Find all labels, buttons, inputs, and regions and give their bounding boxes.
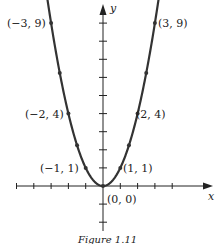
- point-label: (1, 1): [123, 162, 153, 175]
- data-point: [153, 21, 157, 25]
- point-label: (−3, 9): [7, 17, 46, 30]
- data-point: [58, 71, 62, 75]
- point-label: (0, 0): [107, 193, 137, 206]
- point-labels: (−3, 9)(3, 9)(−2, 4)(2, 4)(−1, 1)(1, 1)(…: [7, 17, 188, 206]
- point-label: (−1, 1): [40, 162, 79, 175]
- figure-caption: Figure 1.11: [77, 234, 137, 244]
- x-axis-label: x: [208, 190, 215, 203]
- data-point: [127, 143, 131, 147]
- point-label: (2, 4): [136, 108, 166, 121]
- data-point: [118, 166, 122, 170]
- x-axis-arrow-icon: [203, 183, 213, 190]
- data-point: [49, 21, 53, 25]
- y-axis-arrow-icon: [100, 4, 107, 15]
- data-point: [101, 184, 105, 188]
- y-axis-label: y: [109, 2, 117, 15]
- data-point: [75, 143, 79, 147]
- data-point: [66, 112, 70, 116]
- point-label: (−2, 4): [25, 108, 64, 121]
- point-label: (3, 9): [158, 17, 188, 30]
- parabola-plot: (−3, 9)(3, 9)(−2, 4)(2, 4)(−1, 1)(1, 1)(…: [0, 0, 216, 244]
- parabola-figure: (−3, 9)(3, 9)(−2, 4)(2, 4)(−1, 1)(1, 1)(…: [0, 0, 216, 244]
- data-point: [84, 166, 88, 170]
- data-point: [144, 71, 148, 75]
